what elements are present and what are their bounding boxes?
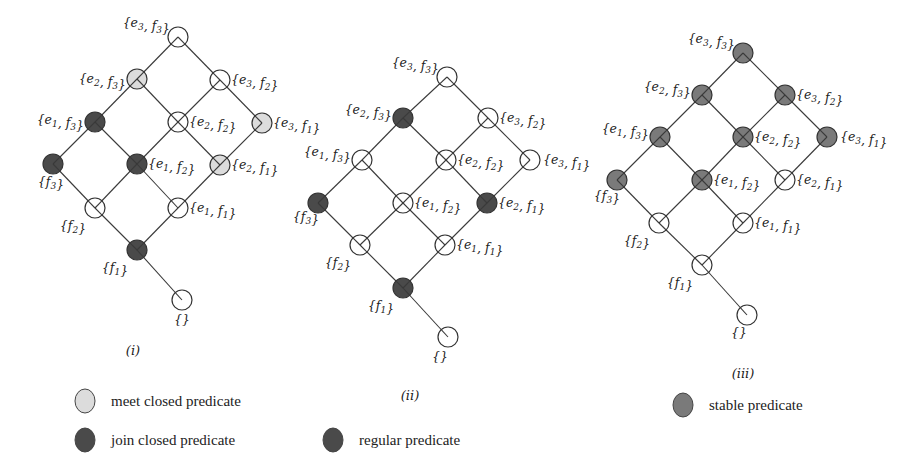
lattice-node-e2f2: {e2, f2} bbox=[733, 127, 801, 150]
lattice-node-e1f1: {e1, f1} bbox=[168, 198, 236, 221]
node-label: {e2, f2} bbox=[189, 114, 236, 135]
node-label: {e2, f3} bbox=[644, 79, 691, 100]
lattice-node-f2: {f2} bbox=[60, 198, 105, 236]
lattice-node-e1f2: {e1, f2} bbox=[127, 154, 195, 177]
node-label: {f1} bbox=[667, 275, 693, 293]
node-label: {e1, f1} bbox=[754, 215, 801, 236]
lattice-node-e2f1: {e2, f1} bbox=[775, 170, 843, 193]
lattice-node-e3f1: {e3, f1} bbox=[817, 127, 887, 150]
legend-swatch-icon bbox=[75, 428, 95, 452]
lattice-diagram-3: {e3, f3}{e2, f3}{e3, f2}{e1, f3}{e2, f2}… bbox=[594, 31, 888, 381]
lattice-node-e1f2: {e1, f2} bbox=[692, 170, 760, 193]
node-label: {e3, f2} bbox=[499, 110, 546, 131]
node-label: {e3, f3} bbox=[392, 55, 439, 76]
lattice-node-empty: {} bbox=[172, 290, 192, 327]
lattice-node-e2f3: {e2, f3} bbox=[644, 79, 712, 105]
legend-swatch-icon bbox=[323, 428, 343, 452]
lattice-node-e3f3: {e3, f3} bbox=[392, 55, 457, 87]
lattice-node-e1f3: {e1, f3} bbox=[37, 112, 105, 133]
node-label: {f2} bbox=[624, 233, 650, 251]
node-label: {e2, f3} bbox=[345, 102, 392, 123]
lattice-node-e3f2: {e3, f2} bbox=[775, 85, 843, 108]
node-label: {f3} bbox=[38, 174, 64, 192]
node-label: {} bbox=[731, 325, 747, 340]
legend-swatch-icon bbox=[75, 389, 95, 413]
lattice-node-e2f2: {e2, f2} bbox=[168, 112, 236, 135]
lattice-node-e2f3: {e2, f3} bbox=[345, 102, 413, 128]
lattice-node-e2f3: {e2, f3} bbox=[79, 69, 147, 92]
node-label: {f2} bbox=[60, 218, 86, 236]
lattice-node-e3f3: {e3, f3} bbox=[123, 15, 188, 47]
lattice-node-e3f2: {e3, f2} bbox=[210, 70, 278, 93]
lattice-node-e1f2: {e1, f2} bbox=[393, 193, 461, 216]
node-label: {} bbox=[432, 349, 448, 364]
lattice-node-f3: {f3} bbox=[293, 193, 328, 227]
legend: meet closed predicatejoin closed predica… bbox=[75, 389, 803, 452]
node-label: {e2, f1} bbox=[796, 172, 843, 193]
lattice-diagram-2: {e3, f3}{e2, f3}{e3, f2}{e1, f3}{e2, f2}… bbox=[293, 55, 591, 403]
lattice-node-f1: {f1} bbox=[368, 278, 413, 316]
node-label: {e1, f3} bbox=[37, 112, 84, 133]
node-label: {e3, f2} bbox=[796, 87, 843, 108]
lattice-node-e3f3: {e3, f3} bbox=[688, 31, 753, 63]
diagram-caption: (iii) bbox=[732, 366, 755, 381]
node-label: {f2} bbox=[325, 255, 351, 273]
node-label: {e2, f1} bbox=[231, 157, 278, 178]
lattice-node-e2f1: {e2, f1} bbox=[477, 193, 545, 216]
lattice-node-e2f1: {e2, f1} bbox=[210, 155, 278, 178]
node-label: {e2, f2} bbox=[457, 152, 504, 173]
lattice-node-f2: {f2} bbox=[325, 235, 370, 273]
node-label: {e3, f1} bbox=[543, 152, 590, 173]
legend-label: join closed predicate bbox=[110, 432, 235, 448]
node-label: {f3} bbox=[594, 188, 620, 206]
node-label: {f1} bbox=[102, 260, 128, 278]
node-label: {e3, f1} bbox=[273, 115, 320, 136]
node-label: {e1, f1} bbox=[456, 237, 503, 258]
node-label: {e1, f1} bbox=[189, 200, 236, 221]
node-label: {e1, f3} bbox=[602, 121, 649, 142]
node-label: {e1, f2} bbox=[713, 172, 760, 193]
lattice-node-e1f3: {e1, f3} bbox=[602, 121, 670, 147]
diagram-caption: (ii) bbox=[401, 388, 419, 403]
node-label: {e2, f2} bbox=[754, 129, 801, 150]
lattice-diagram-1: {e3, f3}{e2, f3}{e3, f2}{e1, f3}{e2, f2}… bbox=[37, 15, 321, 358]
lattice-node-f3: {f3} bbox=[594, 170, 627, 206]
diagram-caption: (i) bbox=[126, 343, 140, 358]
lattice-node-e1f1: {e1, f1} bbox=[733, 213, 801, 236]
node-label: {e1, f2} bbox=[148, 156, 195, 177]
legend-label: meet closed predicate bbox=[111, 393, 241, 409]
legend-label: stable predicate bbox=[709, 397, 803, 413]
node-label: {e1, f2} bbox=[414, 195, 461, 216]
lattice-node-e3f1: {e3, f1} bbox=[520, 150, 590, 173]
node-label: {e1, f3} bbox=[304, 144, 351, 165]
node-label: {e2, f1} bbox=[498, 195, 545, 216]
lattice-figure: {e3, f3}{e2, f3}{e3, f2}{e1, f3}{e2, f2}… bbox=[0, 0, 903, 471]
legend-label: regular predicate bbox=[359, 432, 461, 448]
lattice-node-e3f1: {e3, f1} bbox=[252, 113, 320, 136]
lattice-node-f2: {f2} bbox=[624, 213, 669, 251]
node-label: {e3, f3} bbox=[123, 15, 170, 36]
lattice-node-f1: {f1} bbox=[102, 240, 147, 278]
node-label: {e3, f2} bbox=[231, 72, 278, 93]
node-label: {e3, f3} bbox=[688, 31, 735, 52]
legend-item: stable predicate bbox=[673, 393, 803, 417]
lattice-node-empty: {} bbox=[731, 305, 757, 340]
lattice-node-e3f2: {e3, f2} bbox=[478, 108, 546, 131]
legend-item: meet closed predicate bbox=[75, 389, 241, 413]
node-label: {e2, f3} bbox=[79, 71, 126, 92]
node-label: {} bbox=[174, 312, 190, 327]
lattice-diagrams: {e3, f3}{e2, f3}{e3, f2}{e1, f3}{e2, f2}… bbox=[37, 15, 888, 403]
node-label: {e3, f1} bbox=[840, 129, 887, 150]
lattice-node-e2f2: {e2, f2} bbox=[436, 150, 504, 173]
lattice-node-e1f1: {e1, f1} bbox=[435, 235, 503, 258]
legend-swatch-icon bbox=[673, 393, 693, 417]
lattice-node-f3: {f3} bbox=[38, 154, 64, 192]
node-label: {f1} bbox=[368, 298, 394, 316]
legend-item: join closed predicate bbox=[75, 428, 235, 452]
node-label: {f3} bbox=[293, 209, 319, 227]
lattice-node-empty: {} bbox=[432, 327, 458, 364]
legend-item: regular predicate bbox=[323, 428, 461, 452]
lattice-node-e1f3: {e1, f3} bbox=[304, 144, 372, 170]
lattice-node-f1: {f1} bbox=[667, 255, 712, 293]
